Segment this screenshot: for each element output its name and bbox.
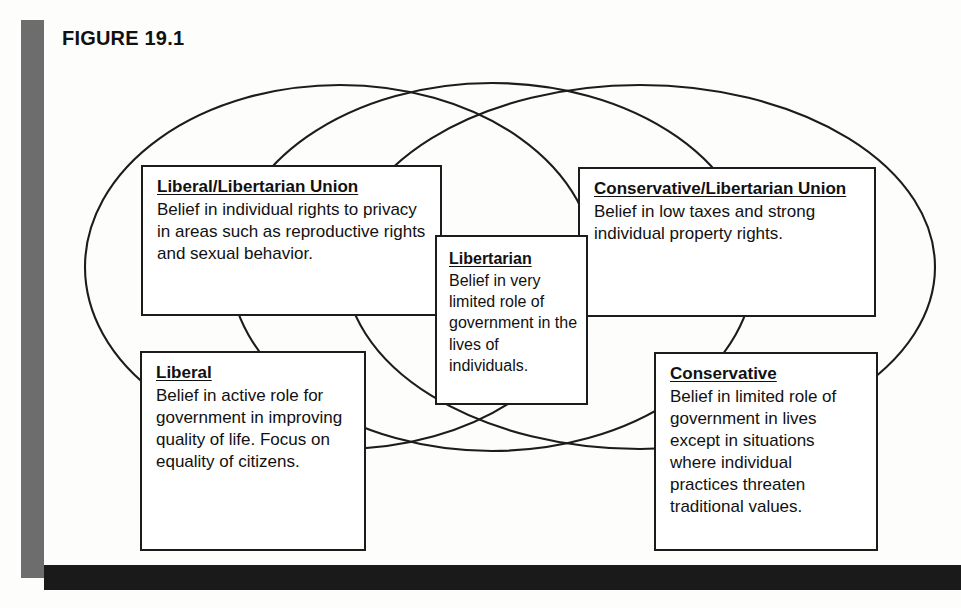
box-conservative-libertarian-union: Conservative/Libertarian Union Belief in… [578,167,876,317]
figure-page: FIGURE 19.1 Liberal/Libertarian Union Be… [0,0,961,608]
box-libertarian: Libertarian Belief in very limited role … [435,235,588,405]
box-body: Belief in very limited role of governmen… [449,270,578,377]
box-title: Conservative/Libertarian Union [594,179,862,200]
box-conservative: Conservative Belief in limited role of g… [654,352,878,551]
box-body: Belief in active role for government in … [156,385,352,473]
box-title: Libertarian [449,249,578,269]
box-liberal-libertarian-union: Liberal/Libertarian Union Belief in indi… [141,165,442,316]
box-title: Conservative [670,364,864,385]
box-title: Liberal [156,363,352,384]
box-body: Belief in low taxes and strong individua… [594,201,862,245]
box-body: Belief in limited role of government in … [670,386,864,519]
box-body: Belief in individual rights to privacy i… [157,199,428,265]
box-liberal: Liberal Belief in active role for govern… [140,351,366,551]
box-title: Liberal/Libertarian Union [157,177,428,198]
